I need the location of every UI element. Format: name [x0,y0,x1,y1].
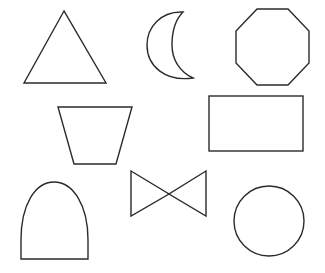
crescent-moon-shape: Crescent moon [147,12,193,79]
shapes-canvas: Triangle Crescent moon Octagon Trapezoid… [0,0,325,273]
circle-shape: Circle [234,186,304,256]
octagon-shape: Octagon [236,9,309,85]
rectangle-shape: Rectangle [209,96,303,151]
triangle-shape: Triangle [24,11,106,83]
trapezoid-shape: Trapezoid [58,107,132,164]
bowtie-shape: Bowtie [131,171,206,216]
arch-shape: Arch [21,182,88,259]
